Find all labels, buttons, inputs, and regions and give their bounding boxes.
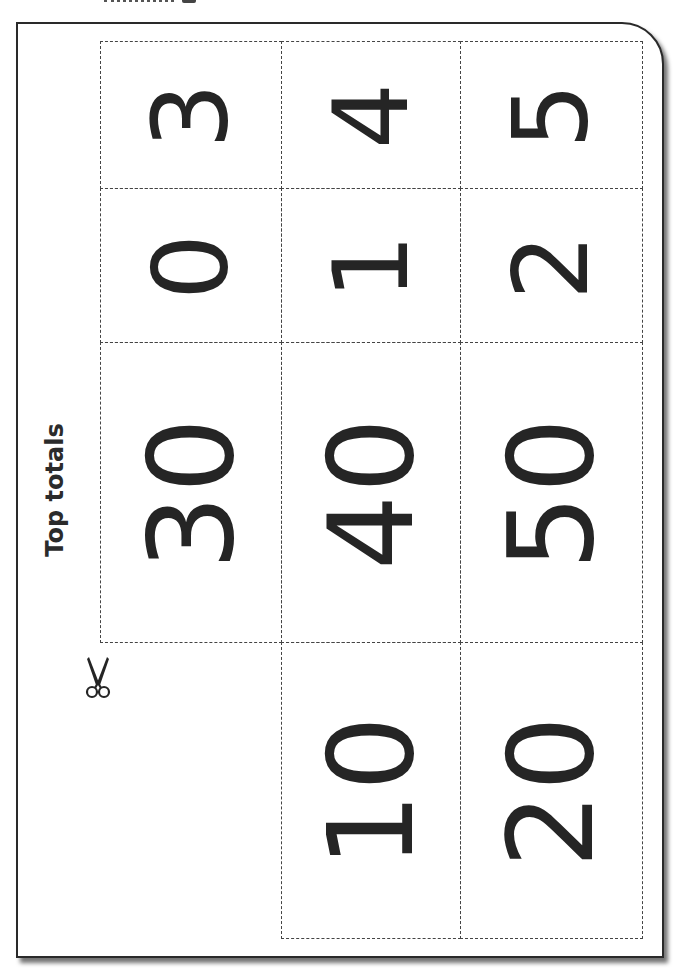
number-card[interactable]: 1 bbox=[281, 188, 461, 343]
number-card[interactable]: 3 bbox=[100, 41, 282, 189]
number-label: 4 bbox=[319, 81, 423, 149]
number-card[interactable]: 50 bbox=[460, 342, 643, 643]
number-label: 3 bbox=[139, 81, 243, 149]
number-label: 2 bbox=[499, 231, 603, 299]
header-text-fragment bbox=[104, 0, 174, 2]
number-card[interactable]: 4 bbox=[281, 41, 461, 189]
number-card[interactable]: 0 bbox=[100, 188, 282, 343]
number-card[interactable]: 20 bbox=[460, 642, 643, 939]
number-label: 20 bbox=[493, 713, 611, 867]
page-title: Top totals bbox=[41, 423, 69, 556]
number-label: 50 bbox=[493, 415, 611, 569]
number-card[interactable]: 10 bbox=[281, 642, 461, 939]
number-label: 0 bbox=[139, 231, 243, 299]
number-label: 40 bbox=[312, 415, 430, 569]
number-label: 10 bbox=[312, 713, 430, 867]
number-card[interactable]: 5 bbox=[460, 41, 643, 189]
number-label: 30 bbox=[132, 415, 250, 569]
header-badge bbox=[182, 0, 196, 3]
scissors-icon bbox=[84, 655, 112, 701]
number-card[interactable]: 40 bbox=[281, 342, 461, 643]
number-label: 1 bbox=[319, 231, 423, 299]
number-label: 5 bbox=[499, 81, 603, 149]
header-fragment bbox=[104, 0, 196, 4]
number-card[interactable]: 2 bbox=[460, 188, 643, 343]
number-card[interactable]: 30 bbox=[100, 342, 282, 643]
